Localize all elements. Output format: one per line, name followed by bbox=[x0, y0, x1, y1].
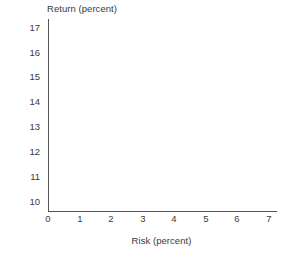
x-tick-label: 4 bbox=[164, 214, 184, 224]
y-tick-label: 13 bbox=[16, 122, 40, 132]
x-tick-label: 3 bbox=[133, 214, 153, 224]
y-tick-label: 16 bbox=[16, 48, 40, 58]
y-tick-label: 14 bbox=[16, 97, 40, 107]
y-tick-label: 17 bbox=[16, 23, 40, 33]
y-axis-title: Return (percent) bbox=[47, 3, 117, 14]
y-tick-label: 11 bbox=[16, 172, 40, 182]
y-tick-label: 10 bbox=[16, 197, 40, 207]
x-tick-label: 0 bbox=[38, 214, 58, 224]
plot-area bbox=[49, 19, 277, 210]
x-tick-label: 1 bbox=[70, 214, 90, 224]
chart-figure: Return (percent) 10 11 12 13 14 15 16 17… bbox=[0, 0, 287, 253]
y-tick-label: 15 bbox=[16, 72, 40, 82]
x-axis-line bbox=[48, 211, 277, 212]
y-tick-label: 12 bbox=[16, 147, 40, 157]
x-tick-label: 2 bbox=[101, 214, 121, 224]
x-tick-label: 7 bbox=[259, 214, 279, 224]
x-tick-label: 6 bbox=[227, 214, 247, 224]
x-axis-title: Risk (percent) bbox=[0, 235, 287, 246]
x-tick-label: 5 bbox=[196, 214, 216, 224]
